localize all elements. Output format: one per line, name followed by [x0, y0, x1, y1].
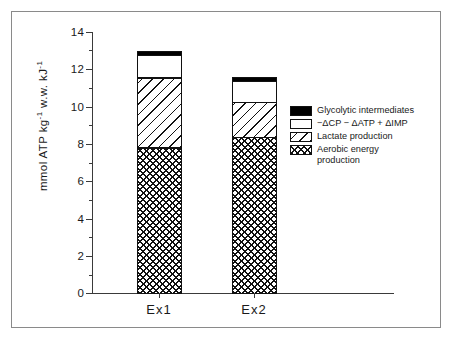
bar-ex1-segment-aerobic-energy-production[interactable]: [137, 148, 182, 294]
y-tick-label-8: 8: [50, 138, 84, 150]
figure-frame: mmol ATP kg-1 w.w. kJ-1 14 12 10 8 6 4 2…: [11, 11, 441, 328]
y-tick-8: [86, 144, 93, 145]
y-minor-tick-7: [89, 163, 93, 164]
y-tick-0: [86, 293, 93, 294]
legend-swatch-diagonal-hatch-icon: [290, 132, 312, 142]
y-tick-label-14: 14: [50, 26, 84, 38]
y-minor-tick-11: [89, 88, 93, 89]
y-tick-14: [86, 32, 93, 33]
x-tick-ex2: [254, 293, 255, 298]
bar-ex1[interactable]: [137, 12, 182, 294]
y-tick-label-2: 2: [50, 250, 84, 262]
bar-ex1-segment-lactate-production[interactable]: [137, 78, 182, 148]
y-tick-label-4: 4: [50, 213, 84, 225]
legend-item-aerobic-energy-production[interactable]: Aerobic energy production: [290, 144, 440, 165]
bar-ex2-segment-lactate-production[interactable]: [232, 102, 277, 138]
x-tick-ex1: [159, 293, 160, 298]
bar-ex2-segment-aerobic-energy-production[interactable]: [232, 137, 277, 294]
legend-label-aerobic-energy-production: Aerobic energy production: [317, 144, 379, 165]
y-tick-label-10: 10: [50, 101, 84, 113]
y-tick-12: [86, 69, 93, 70]
legend-label-delta-cp-atp-imp: −ΔCP − ΔATP + ΔIMP: [317, 118, 408, 129]
x-axis-label-ex2: Ex2: [219, 302, 289, 317]
y-tick-label-6: 6: [50, 175, 84, 187]
legend-item-glycolytic-intermediates[interactable]: Glycolytic intermediates: [290, 105, 440, 116]
bar-ex2-segment-delta-cp-atp-imp[interactable]: [232, 81, 277, 103]
chart-legend: Glycolytic intermediates −ΔCP − ΔATP + Δ…: [290, 105, 440, 167]
bar-ex2-segment-glycolytic-intermediates[interactable]: [232, 77, 277, 82]
chart-plot-area: mmol ATP kg-1 w.w. kJ-1 14 12 10 8 6 4 2…: [12, 12, 442, 329]
y-tick-label-0: 0: [50, 287, 84, 299]
y-tick-2: [86, 256, 93, 257]
legend-label-lactate-production: Lactate production: [317, 131, 393, 142]
bar-ex2[interactable]: [232, 12, 277, 294]
y-minor-tick-13: [89, 50, 93, 51]
x-axis-label-ex1: Ex1: [124, 302, 194, 317]
y-axis-title: mmol ATP kg-1 w.w. kJ-1: [35, 16, 49, 236]
y-minor-tick-9: [89, 125, 93, 126]
legend-item-delta-cp-atp-imp[interactable]: −ΔCP − ΔATP + ΔIMP: [290, 118, 440, 129]
legend-item-lactate-production[interactable]: Lactate production: [290, 131, 440, 142]
y-tick-4: [86, 219, 93, 220]
legend-swatch-solid-black-icon: [290, 106, 312, 116]
legend-swatch-cross-hatch-icon: [290, 145, 312, 155]
y-minor-tick-3: [89, 237, 93, 238]
bar-ex1-segment-glycolytic-intermediates[interactable]: [137, 51, 182, 56]
y-tick-10: [86, 107, 93, 108]
y-tick-6: [86, 181, 93, 182]
legend-swatch-white-icon: [290, 119, 312, 129]
legend-label-glycolytic-intermediates: Glycolytic intermediates: [317, 105, 414, 116]
y-tick-label-12: 12: [50, 63, 84, 75]
bar-ex1-segment-delta-cp-atp-imp[interactable]: [137, 55, 182, 78]
y-minor-tick-1: [89, 275, 93, 276]
y-minor-tick-5: [89, 200, 93, 201]
